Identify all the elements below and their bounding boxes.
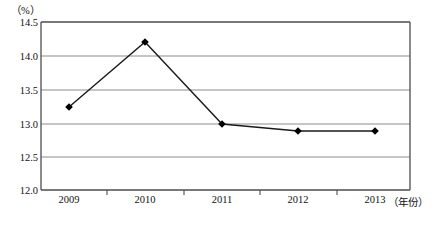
plot-area [0, 0, 441, 227]
axis-frame [41, 22, 410, 190]
line-chart: （%） 14.5 14.0 13.5 13.0 12.5 12.0 11.5 [0, 0, 441, 227]
x-tick-label: 2010 [135, 194, 156, 205]
data-line [69, 42, 375, 131]
data-point-markers [65, 38, 379, 135]
x-tick-label: 2011 [212, 194, 233, 205]
gridlines [41, 56, 410, 157]
x-tick-label: 2012 [288, 194, 309, 205]
x-axis-title: （年份） [388, 194, 428, 209]
x-tick-label: 2013 [365, 194, 386, 205]
x-tick-label: 2009 [59, 194, 80, 205]
